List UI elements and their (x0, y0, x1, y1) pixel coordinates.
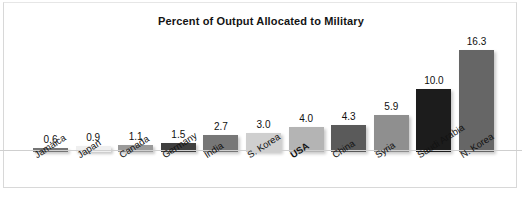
bar-group: 1.1 (118, 2, 153, 152)
bar-group: 2.7 (203, 2, 238, 152)
bar-group: 1.5 (161, 2, 196, 152)
bar-group: 5.9 (374, 2, 409, 152)
bar-group: 4.0 (289, 2, 324, 152)
bar-group: 4.3 (331, 2, 366, 152)
bar-value-label: 16.3 (451, 36, 502, 47)
bar-value-label: 4.3 (323, 111, 374, 122)
bar-value-label: 5.9 (366, 101, 417, 112)
bar-value-label: 10.0 (408, 75, 459, 86)
bar-chart-figure: Percent of Output Allocated to Military … (0, 0, 522, 215)
bar-group: 0.9 (76, 2, 111, 152)
plot-area: 0.60.91.11.52.73.04.04.35.910.016.3 (0, 0, 522, 152)
category-axis: JamaicaJapanCanadaGermanyIndiaS. KoreaUS… (0, 151, 522, 215)
bar-group: 0.6 (33, 2, 68, 152)
